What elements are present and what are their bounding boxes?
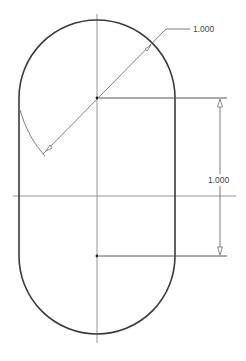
radius-arc-extension <box>20 110 45 156</box>
dimension-arrow-down <box>218 247 223 255</box>
upper-center-point <box>96 97 99 100</box>
radius-arrow-outer <box>145 45 151 51</box>
dimension-arrow-up <box>218 99 223 107</box>
lower-center-point <box>96 255 99 258</box>
center-distance-dimension-label: 1.000 <box>208 176 229 185</box>
radius-dimension-label: 1.000 <box>193 25 214 34</box>
